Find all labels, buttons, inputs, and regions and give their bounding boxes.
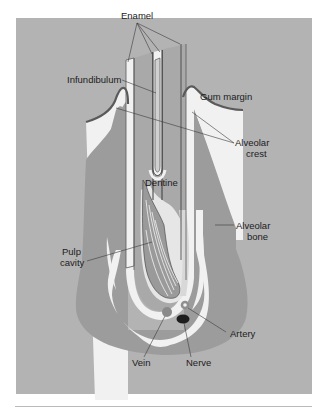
label-dentine: Dentine bbox=[145, 177, 178, 188]
nerve-icon bbox=[177, 315, 190, 324]
artery-lumen bbox=[183, 303, 187, 307]
label-alveolar-crest-line1: Alveolar bbox=[235, 137, 269, 148]
label-alveolar-bone-line2: bone bbox=[247, 231, 268, 242]
label-pulp-line2: cavity bbox=[60, 257, 85, 268]
label-pulp-line1: Pulp bbox=[62, 246, 81, 257]
label-vein: Vein bbox=[132, 357, 151, 368]
label-alveolar-crest-line2: crest bbox=[246, 148, 267, 159]
label-infundibulum: Infundibulum bbox=[67, 74, 121, 85]
label-alveolar-bone-line1: Alveolar bbox=[236, 220, 270, 231]
tooth-anatomy-diagram: Enamel Infundibulum Gum margin Alveolar … bbox=[0, 0, 327, 413]
bottom-divider bbox=[15, 406, 312, 407]
label-enamel: Enamel bbox=[121, 10, 153, 21]
label-nerve: Nerve bbox=[186, 357, 211, 368]
label-gum-margin: Gum margin bbox=[200, 91, 252, 102]
label-artery: Artery bbox=[230, 328, 256, 339]
vein-icon bbox=[162, 307, 172, 317]
infundibulum-inner bbox=[155, 58, 160, 172]
